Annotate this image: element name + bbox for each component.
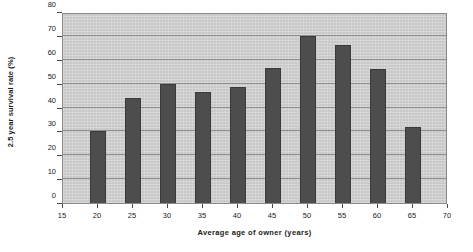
gridline [63,154,446,155]
x-tick-mark [237,204,238,208]
x-tick-label: 30 [152,211,182,220]
gridline [63,107,446,108]
bar [160,84,176,203]
bar [195,92,211,203]
x-tick-mark [342,204,343,208]
bar [230,87,246,203]
x-tick-mark [272,204,273,208]
x-tick-mark [447,204,448,208]
x-tick-mark [132,204,133,208]
y-axis-tick-labels: 01020304050607080 [0,13,56,204]
y-tick-label: 40 [10,97,56,105]
y-tick-label: 20 [10,144,56,152]
bar [300,36,316,203]
gridline [63,130,446,131]
x-tick-mark [97,204,98,208]
x-tick-label: 40 [222,211,252,220]
y-tick-label: 70 [10,25,56,33]
gridline [63,178,446,179]
x-tick-label: 60 [362,211,392,220]
x-tick-label: 20 [82,211,112,220]
y-tick-label: 30 [10,120,56,128]
x-tick-mark [377,204,378,208]
x-tick-mark [202,204,203,208]
x-tick-mark [167,204,168,208]
bar [370,69,386,203]
x-tick-label: 15 [47,211,77,220]
plot-background-texture [63,14,446,203]
x-tick-label: 35 [187,211,217,220]
bar [405,127,421,203]
x-tick-label: 65 [397,211,427,220]
x-tick-label: 70 [432,211,462,220]
x-tick-label: 45 [257,211,287,220]
x-tick-mark [412,204,413,208]
gridline [63,83,446,84]
y-tick-label: 60 [10,49,56,57]
plot-area [62,13,447,204]
x-tick-mark [307,204,308,208]
gridline [63,59,446,60]
bar [335,45,351,203]
x-tick-label: 55 [327,211,357,220]
y-tick-label: 10 [10,168,56,176]
x-tick-mark [62,204,63,208]
y-tick-label: 0 [10,192,56,200]
x-tick-label: 25 [117,211,147,220]
gridline [63,35,446,36]
bar [90,131,106,203]
x-axis-tick-labels: 152025303540455055606570 [62,204,447,224]
x-tick-label: 50 [292,211,322,220]
x-axis-title: Average age of owner (years) [62,228,447,237]
y-tick-label: 80 [10,1,56,9]
y-tick-label: 50 [10,73,56,81]
bar [265,68,281,203]
bar-chart: 2.5 year survival rate (%) 0102030405060… [0,0,473,252]
bar [125,98,141,203]
